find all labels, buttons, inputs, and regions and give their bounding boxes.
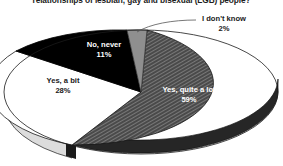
- slice-label-no-never-value: 11%: [68, 50, 140, 60]
- slice-label-i-dont-know-value: 2%: [188, 24, 260, 34]
- slice-label-no-never-name: No, never: [87, 40, 122, 49]
- slice-label-yes-a-bit: Yes, a bit 28%: [28, 76, 98, 95]
- slice-label-yes-a-bit-name: Yes, a bit: [47, 76, 80, 85]
- slice-label-yes-a-bit-value: 28%: [28, 86, 98, 96]
- slice-label-i-dont-know-name: I don't know: [202, 14, 246, 23]
- slice-label-yes-quite-a-lot-value: 59%: [146, 95, 232, 105]
- pie-chart-figure: relationships of lesbian, gay and bisexu…: [0, 0, 283, 166]
- slice-label-no-never: No, never 11%: [68, 40, 140, 59]
- slice-label-yes-quite-a-lot-name: Yes, quite a lot: [162, 85, 215, 94]
- slice-label-i-dont-know: I don't know 2%: [188, 14, 260, 33]
- slice-label-yes-quite-a-lot: Yes, quite a lot 59%: [146, 85, 232, 104]
